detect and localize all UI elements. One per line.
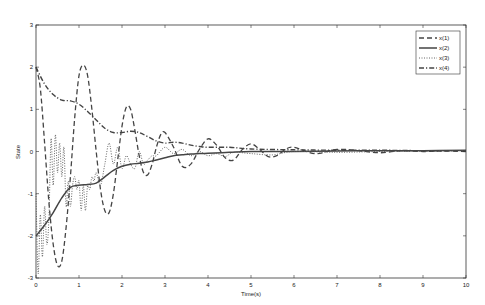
x-tick-label: 4 xyxy=(206,282,210,288)
legend: x(1)x(2)x(3)x(4) xyxy=(416,31,460,74)
x-tick-label: 5 xyxy=(249,282,253,288)
y-tick-label: 0 xyxy=(30,149,34,155)
y-tick-label: 2 xyxy=(30,64,34,70)
y-tick-label: 3 xyxy=(30,22,34,28)
x-tick-label: 8 xyxy=(378,282,382,288)
series-line-x4 xyxy=(36,67,466,151)
y-tick-label: -1 xyxy=(28,191,34,197)
series-layer xyxy=(36,65,466,274)
x-tick-label: 9 xyxy=(421,282,425,288)
x-axis-ticks: 012345678910 xyxy=(34,25,470,288)
legend-label: x(2) xyxy=(439,45,449,51)
y-tick-label: -2 xyxy=(28,233,34,239)
x-tick-label: 3 xyxy=(163,282,167,288)
y-tick-label: 1 xyxy=(30,106,34,112)
series-line-x3 xyxy=(36,135,466,274)
legend-label: x(1) xyxy=(439,35,449,41)
x-tick-label: 6 xyxy=(292,282,296,288)
x-axis-label: Time(s) xyxy=(241,291,261,297)
y-axis-label: State xyxy=(15,144,21,159)
legend-label: x(4) xyxy=(439,65,449,71)
x-tick-label: 7 xyxy=(335,282,339,288)
x-tick-label: 1 xyxy=(77,282,81,288)
series-line-x1 xyxy=(36,65,466,267)
x-tick-label: 2 xyxy=(120,282,124,288)
legend-label: x(3) xyxy=(439,55,449,61)
line-chart: 012345678910 -3-2-10123 Time(s) State x(… xyxy=(0,0,485,305)
x-tick-label: 10 xyxy=(463,282,470,288)
x-tick-label: 0 xyxy=(34,282,38,288)
y-tick-label: -3 xyxy=(28,275,34,281)
